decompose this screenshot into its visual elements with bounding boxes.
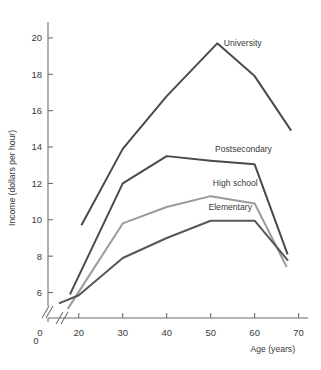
axis-layer — [42, 22, 308, 324]
x-axis-title: Age (years) — [251, 344, 296, 354]
series-label-elementary: Elementary — [208, 202, 252, 212]
series-label-university: University — [224, 38, 262, 48]
x-tick-label-40: 40 — [161, 327, 172, 338]
y-tick-label-14: 14 — [31, 141, 42, 152]
series-line-postsecondary — [70, 156, 288, 294]
y-axis-break-mark — [42, 306, 53, 318]
series-layer — [59, 43, 291, 309]
series-line-elementary — [59, 221, 288, 304]
y-tick-label-10: 10 — [31, 214, 42, 225]
x-tick-label-50: 50 — [205, 327, 216, 338]
y-tick-label-18: 18 — [31, 69, 42, 80]
series-label-postsecondary: Postsecondary — [215, 144, 273, 154]
series-line-university — [81, 43, 291, 225]
x-tick-label-60: 60 — [249, 327, 260, 338]
y-tick-label-12: 12 — [31, 178, 42, 189]
x-tick-label-70: 70 — [293, 327, 304, 338]
y-tick-label-20: 20 — [31, 32, 42, 43]
y-tick-label-6: 6 — [37, 287, 42, 298]
x-tick-label-30: 30 — [117, 327, 128, 338]
series-label-high-school: High school — [213, 178, 258, 188]
x-tick-label-0: 0 — [37, 327, 42, 338]
y-axis-title: Income (dollars per hour) — [7, 130, 17, 226]
series-line-high-school — [68, 196, 287, 309]
income-by-education-line-chart: 0681012141618200203040506070 UniversityP… — [0, 0, 321, 370]
y-tick-label-8: 8 — [37, 251, 42, 262]
y-tick-label-16: 16 — [31, 105, 42, 116]
x-tick-label-20: 20 — [73, 327, 84, 338]
chart-canvas: 0681012141618200203040506070 UniversityP… — [0, 0, 321, 370]
